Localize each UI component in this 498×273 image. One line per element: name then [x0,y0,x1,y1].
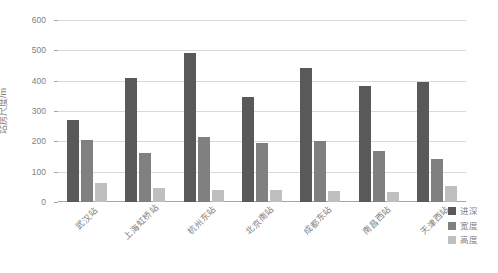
bar [81,140,93,202]
x-axis-label-cell: 武汉站 [58,204,116,270]
bar-groups [58,20,466,202]
bar-group [58,20,116,202]
bar [445,186,457,202]
y-axis-tick-mark [54,172,58,173]
x-axis-tick-label: 北京南站 [242,202,276,236]
y-axis-tick-label: 600 [0,16,46,25]
bar-group [349,20,407,202]
legend-item[interactable]: 进深 [448,207,478,216]
x-axis-tick-label: 南昌西站 [359,202,393,236]
bar [314,141,326,202]
y-axis-tick-label: 200 [0,137,46,146]
bar [417,82,429,202]
y-axis-tick-label: 0 [0,198,46,207]
x-axis-label-cell: 南昌西站 [349,204,407,270]
y-axis-tick-label: 500 [0,46,46,55]
legend-item-label: 宽度 [460,222,478,231]
bar [373,151,385,202]
x-axis-labels: 武汉站上海虹桥站杭州东站北京南站成都东站南昌西站天津西站 [58,204,466,270]
y-axis-tick-label: 300 [0,107,46,116]
legend-item[interactable]: 高度 [448,236,478,245]
bar [256,143,268,202]
y-axis-tick-mark [54,50,58,51]
bar-group [116,20,174,202]
bar-group [291,20,349,202]
bar [184,53,196,202]
bar-group [408,20,466,202]
plot-area [58,20,466,202]
x-axis-tick-label: 上海虹桥站 [121,201,161,241]
legend-item[interactable]: 宽度 [448,222,478,231]
bar [387,192,399,202]
y-axis-tick-label: 100 [0,167,46,176]
bar [198,137,210,202]
x-axis-label-cell: 成都东站 [291,204,349,270]
y-axis-tick-label: 400 [0,76,46,85]
y-axis-tick-mark [54,20,58,21]
bar [153,188,165,202]
bar [431,159,443,202]
bar [125,78,137,202]
bar [212,190,224,202]
legend-item-label: 进深 [460,207,478,216]
bar [242,97,254,202]
y-axis-tick-mark [54,202,58,203]
y-axis-tick-mark [54,111,58,112]
x-axis-label-cell: 北京南站 [233,204,291,270]
bar-group [233,20,291,202]
x-axis-label-cell: 杭州东站 [175,204,233,270]
bar [300,68,312,202]
legend-swatch-jinshen [448,207,456,215]
bar-chart-station-dimensions: 站房尺度/m 0100200300400500600 武汉站上海虹桥站杭州东站北… [0,0,498,273]
legend-item-label: 高度 [460,236,478,245]
x-axis-tick-label: 成都东站 [300,202,334,236]
bar [328,191,340,202]
bar [139,153,151,202]
x-axis-tick-label: 武汉站 [72,204,100,232]
bar [67,120,79,202]
bar [270,190,282,202]
bar [95,183,107,202]
x-axis-label-cell: 上海虹桥站 [116,204,174,270]
bar-group [175,20,233,202]
y-axis-tick-mark [54,141,58,142]
bar [359,86,371,202]
x-axis-tick-label: 杭州东站 [184,202,218,236]
chart-legend: 进深宽度高度 [448,207,478,245]
legend-swatch-gaodu [448,236,456,244]
legend-swatch-kuandu [448,222,456,230]
y-axis-tick-mark [54,81,58,82]
x-axis-tick-label: 天津西站 [417,202,451,236]
